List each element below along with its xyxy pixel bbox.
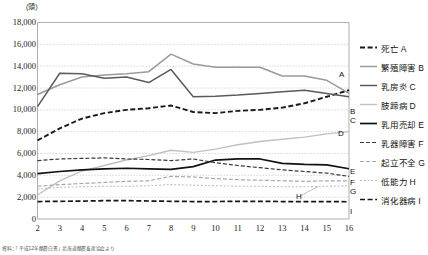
legend-swatch-H — [360, 176, 377, 185]
end-label-D: D — [338, 130, 344, 138]
x-axis-tick: 6 — [118, 223, 136, 233]
legend-swatch-I — [360, 195, 377, 204]
legend-swatch-E — [360, 119, 377, 128]
end-label-A: A — [339, 71, 344, 79]
x-axis-tick: 7 — [140, 223, 158, 233]
chart-legend: 死亡 A繁殖障害 B乳房炎 C肢蹄病 D乳用売却 E乳器障害 F起立不全 G低能… — [360, 38, 428, 209]
x-axis-tick: 2 — [29, 223, 47, 233]
source-footnote: 資料：「平成12年酪農白書」北海道酪農畜産協会より — [2, 244, 115, 251]
x-axis-tick: 8 — [162, 223, 180, 233]
end-label-I: I — [350, 208, 352, 216]
legend-item-B[interactable]: 繁殖障害 B — [360, 57, 428, 76]
x-axis-tick: 13 — [273, 223, 291, 233]
legend-item-G[interactable]: 起立不全 G — [360, 152, 428, 171]
legend-label-D: 肢蹄病 D — [381, 99, 416, 111]
legend-label-B: 繁殖障害 B — [381, 61, 424, 73]
legend-item-D[interactable]: 肢蹄病 D — [360, 95, 428, 114]
legend-item-C[interactable]: 乳房炎 C — [360, 76, 428, 95]
legend-item-I[interactable]: 消化器病 I — [360, 190, 428, 209]
x-axis-tick: 16 — [340, 223, 358, 233]
legend-swatch-C — [360, 81, 377, 90]
line-chart: (頭) 02,0004,0006,0008,00010,00012,00014,… — [0, 0, 428, 255]
legend-label-G: 起立不全 G — [381, 156, 425, 168]
x-axis-tick: 15 — [318, 223, 336, 233]
legend-label-C: 乳房炎 C — [381, 80, 416, 92]
x-axis-tick: 10 — [207, 223, 225, 233]
legend-label-A: 死亡 A — [381, 42, 406, 54]
leader-line-h — [300, 187, 318, 197]
legend-item-F[interactable]: 乳器障害 F — [360, 133, 428, 152]
series-line-I — [38, 201, 350, 202]
x-axis-tick: 4 — [73, 223, 91, 233]
series-line-A — [38, 90, 350, 140]
end-label-C: C — [350, 117, 356, 125]
x-axis-tick: 3 — [51, 223, 69, 233]
legend-label-F: 乳器障害 F — [381, 137, 423, 149]
legend-label-H: 低能力 H — [381, 175, 416, 187]
end-label-G: G — [350, 188, 356, 196]
legend-swatch-D — [360, 100, 377, 109]
x-axis-tick: 5 — [95, 223, 113, 233]
series-line-H — [38, 185, 350, 189]
end-label-F: F — [350, 179, 355, 187]
legend-swatch-A — [360, 43, 377, 52]
end-label-B: B — [350, 108, 355, 116]
end-label-E: E — [350, 168, 355, 176]
legend-swatch-G — [360, 157, 377, 166]
x-axis-tick: 14 — [296, 223, 314, 233]
legend-label-E: 乳用売却 E — [381, 118, 424, 130]
legend-swatch-F — [360, 138, 377, 147]
end-label-H: H — [296, 193, 302, 201]
x-axis-tick: 11 — [229, 223, 247, 233]
legend-item-E[interactable]: 乳用売却 E — [360, 114, 428, 133]
legend-item-H[interactable]: 低能力 H — [360, 171, 428, 190]
x-axis-tick: 9 — [184, 223, 202, 233]
legend-label-I: 消化器病 I — [381, 194, 421, 206]
x-axis-tick: 12 — [251, 223, 269, 233]
legend-item-A[interactable]: 死亡 A — [360, 38, 428, 57]
legend-swatch-B — [360, 62, 377, 71]
